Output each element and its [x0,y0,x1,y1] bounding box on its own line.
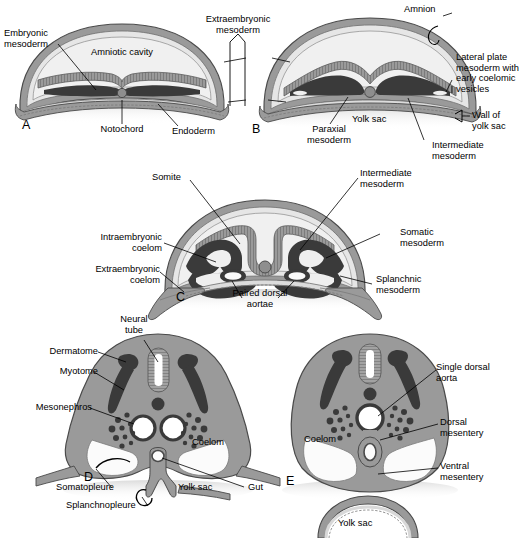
label-yolk-sac-b: Yolk sac [352,114,386,125]
panel-e-drawing [282,334,458,500]
panel-letter-c: C [176,290,185,304]
label-endoderm: Endoderm [172,126,215,137]
label-dorsal-mesentery: Dorsal mesentery [440,417,483,438]
notochord-d [152,398,165,411]
coelomic-vesicle-right-b [433,91,447,95]
notochord-a [117,88,126,97]
label-amnion: Amnion [404,4,436,15]
label-intraembryonic-coelom: Intraembryonic coelom [58,232,162,253]
label-ventral-mesentery: Ventral mesentery [440,461,483,482]
label-embryonic-mesoderm: Embryonic mesoderm [4,28,48,49]
label-single-dorsal-aorta: Single dorsal aorta [436,362,490,383]
label-paired-dorsal-aortae: Paired dorsal aortae [208,288,312,309]
label-somatopleure: Somatopleure [16,482,114,493]
extraembryonic-bracket [230,34,245,106]
label-amniotic-cavity: Amniotic cavity [72,47,172,58]
notochord-c [259,261,271,273]
coelomic-vesicle-left-b [293,91,307,95]
label-wall-of-yolk-sac: Wall of yolk sac [472,110,506,131]
single-dorsal-aorta-e [357,405,383,431]
dorsal-aorta-right-d [161,416,185,440]
label-paraxial-mesoderm: Paraxial mesoderm [280,124,378,145]
yolk-sac-wall-bottom [318,496,418,538]
label-yolk-sac-d: Yolk sac [178,482,212,493]
panel-letter-d: D [84,470,93,484]
label-dermatome: Dermatome [22,346,98,357]
neural-canal-e [366,350,374,378]
label-myotome: Myotome [22,366,98,377]
label-gut: Gut [248,482,263,493]
label-coelom-d: Coelom [192,437,224,448]
label-coelom-e: Coelom [304,434,336,445]
label-intermediate-mesoderm-b: Intermediate mesoderm [432,140,484,161]
label-lateral-plate-mesoderm: Lateral plate mesoderm with early coelom… [456,52,519,94]
label-extraembryonic-mesoderm: Extraembryonic mesoderm [186,14,290,35]
label-splanchnic-mesoderm: Splanchnic mesoderm [376,274,421,295]
label-somatic-mesoderm: Somatic mesoderm [400,227,444,248]
gut-lumen-d [152,451,164,462]
label-yolk-sac-e: Yolk sac [338,518,372,529]
gut-lumen-e [364,444,376,461]
dorsal-aorta-left-d [131,416,155,440]
notochord-b [365,87,376,98]
embryology-figure: Embryonic mesoderm Amniotic cavity Notoc… [0,0,523,538]
label-neural-tube: Neural tube [104,314,164,335]
label-splanchnopleure: Splanchnopleure [66,500,136,511]
panel-letter-a: A [22,118,30,132]
panel-letter-e: E [286,474,294,488]
label-somite: Somite [152,172,181,183]
aorta-left-lumen-c [225,272,242,280]
aorta-right-lumen-c [289,272,306,280]
yolk-sac-bottom-drawing [318,496,418,538]
label-notochord: Notochord [86,124,158,135]
label-mesonephros: Mesonephros [8,402,92,413]
label-intermediate-mesoderm-c: Intermediate mesoderm [360,168,412,189]
panel-d-drawing [36,334,280,505]
notochord-e [364,388,377,401]
panel-letter-b: B [252,122,260,136]
label-extraembryonic-coelom: Extraembryonic coelom [58,264,160,285]
